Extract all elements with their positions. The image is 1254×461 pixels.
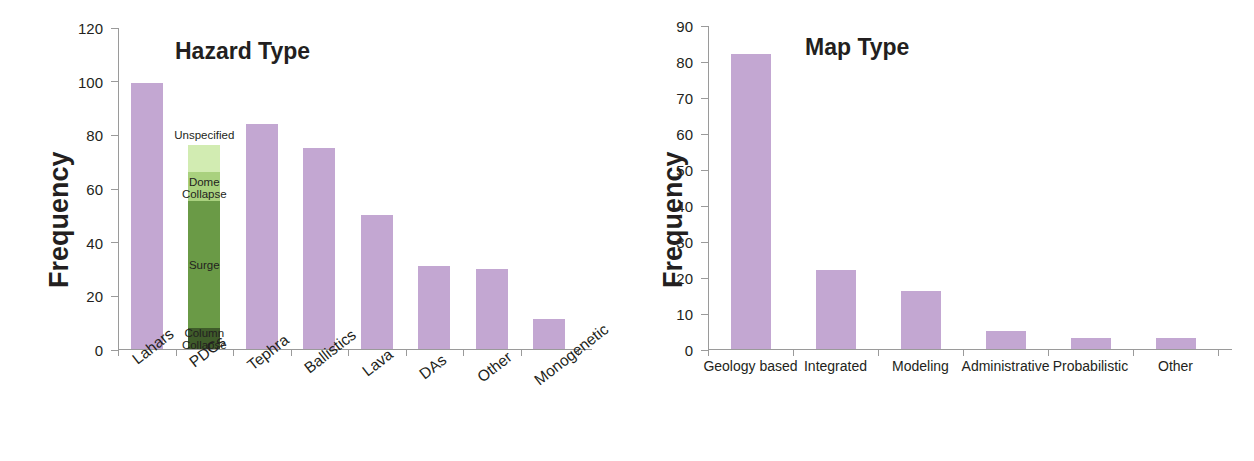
plot-area-map-type: 0102030405060708090 — [708, 26, 1218, 350]
x-axis-category-label: Administrative — [962, 358, 1050, 374]
y-axis-tick: 50 — [701, 170, 708, 171]
x-axis-category-label: Other — [1158, 358, 1193, 374]
figure-two-bar-charts: Frequency Hazard Type ColumnCollapseSurg… — [0, 0, 1254, 461]
x-axis-category-label: Other — [474, 348, 516, 386]
bar — [476, 269, 508, 350]
y-axis-tick-label: 80 — [86, 127, 103, 144]
y-axis-tick: 40 — [701, 206, 708, 207]
y-axis-tick-label: 0 — [95, 342, 103, 359]
bar — [303, 148, 335, 349]
bar — [246, 124, 278, 349]
y-axis-tick-label: 20 — [86, 288, 103, 305]
y-axis-tick: 0 — [701, 350, 708, 351]
bar-group-hazard-type: ColumnCollapseSurgeDomeCollapseUnspecifi… — [118, 28, 578, 349]
y-axis-tick: 30 — [701, 242, 708, 243]
x-axis-tick — [1133, 350, 1134, 356]
stacked-bar-pdcs: ColumnCollapseSurgeDomeCollapseUnspecifi… — [188, 145, 220, 349]
y-axis-tick-label: 40 — [676, 198, 693, 215]
y-axis-tick-label: 20 — [676, 270, 693, 287]
x-axis-tick — [233, 350, 234, 356]
x-axis-line-right — [708, 349, 1232, 350]
x-axis-tick — [521, 350, 522, 356]
y-axis-tick-label: 80 — [676, 54, 693, 71]
y-axis-tick: 60 — [701, 134, 708, 135]
stacked-bar-segment-label: Surge — [189, 259, 220, 271]
x-axis-tick — [793, 350, 794, 356]
bar — [1071, 338, 1111, 349]
y-axis-tick: 120 — [111, 28, 118, 29]
y-axis-tick: 40 — [111, 242, 118, 243]
bar — [533, 319, 565, 349]
x-axis-category-label: DAs — [416, 351, 450, 383]
x-axis-tick — [1218, 350, 1219, 356]
bar — [731, 54, 771, 349]
bar-group-map-type — [708, 26, 1218, 349]
bar — [361, 215, 393, 349]
y-axis-tick-label: 60 — [86, 181, 103, 198]
x-axis-tick — [463, 350, 464, 356]
y-axis-tick-label: 30 — [676, 234, 693, 251]
y-axis-tick: 80 — [701, 62, 708, 63]
bar — [418, 266, 450, 349]
x-axis-tick — [963, 350, 964, 356]
x-axis-tick — [118, 350, 119, 356]
x-axis-category-label: Lava — [359, 345, 397, 380]
x-axis-tick — [878, 350, 879, 356]
x-axis-category-label: Modeling — [892, 358, 949, 374]
plot-area-hazard-type: ColumnCollapseSurgeDomeCollapseUnspecifi… — [118, 28, 578, 350]
x-axis-tick — [708, 350, 709, 356]
y-axis-title-left: Frequency — [44, 151, 75, 288]
y-axis-tick-label: 0 — [685, 342, 693, 359]
y-axis-tick: 0 — [111, 350, 118, 351]
x-axis-tick — [348, 350, 349, 356]
x-axis-tick — [406, 350, 407, 356]
x-axis-tick — [1048, 350, 1049, 356]
bar — [901, 291, 941, 349]
chart-panel-map-type: Frequency Map Type 0102030405060708090 G… — [620, 0, 1254, 461]
bar — [1156, 338, 1196, 349]
y-axis-tick: 10 — [701, 314, 708, 315]
y-axis-tick: 80 — [111, 135, 118, 136]
bar — [986, 331, 1026, 349]
x-axis-tick — [291, 350, 292, 356]
y-axis-tick: 60 — [111, 189, 118, 190]
y-axis-tick-label: 70 — [676, 90, 693, 107]
y-axis-tick-label: 50 — [676, 162, 693, 179]
y-axis-tick: 100 — [111, 81, 118, 82]
x-axis-category-label: Probabilistic — [1053, 358, 1128, 374]
y-axis-tick: 20 — [701, 278, 708, 279]
stacked-bar-segment — [188, 145, 220, 172]
stacked-bar-segment-label: DomeCollapse — [182, 176, 227, 200]
y-axis-tick: 20 — [111, 296, 118, 297]
x-axis-category-label: Integrated — [804, 358, 867, 374]
x-axis-category-label: Geology based — [703, 358, 797, 374]
y-axis-tick-label: 10 — [676, 306, 693, 323]
bar — [131, 83, 163, 349]
y-axis-tick-label: 60 — [676, 126, 693, 143]
x-axis-tick — [176, 350, 177, 356]
y-axis-tick: 70 — [701, 98, 708, 99]
y-axis-tick-label: 40 — [86, 234, 103, 251]
stacked-bar-segment-label: Unspecified — [174, 129, 234, 141]
bar — [816, 270, 856, 349]
y-axis-tick-label: 120 — [78, 20, 103, 37]
y-axis-tick-label: 100 — [78, 73, 103, 90]
chart-panel-hazard-type: Frequency Hazard Type ColumnCollapseSurg… — [0, 0, 620, 461]
y-axis-tick: 90 — [701, 26, 708, 27]
y-axis-tick-label: 90 — [676, 18, 693, 35]
